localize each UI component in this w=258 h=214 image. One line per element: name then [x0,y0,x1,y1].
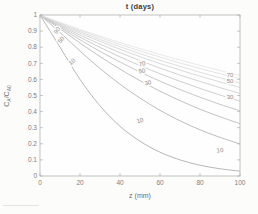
y-tick-label: 0.8 [28,43,37,50]
plot-area [40,15,240,176]
x-tick-label: 100 [235,179,246,186]
x-tick-label: 60 [156,179,164,186]
contour-plot-canvas: 02040608010000.10.20.30.40.50.60.70.80.9… [0,0,258,214]
contour-label-50: 50 [227,78,234,84]
contour-label-10: 10 [216,147,224,153]
y-tick-label: 0.1 [28,156,37,163]
y-tick-label: 1 [33,11,37,18]
y-tick-label: 0.7 [28,60,37,67]
contour-label-30: 30 [227,94,234,100]
y-tick-label: 0.3 [28,124,37,131]
x-tick-label: 40 [116,179,124,186]
y-tick-label: 0.5 [28,92,37,99]
y-tick-label: 0.2 [28,140,37,147]
matlab-figure: t (days) CA/CA0 02040608010000.10.20.30.… [0,0,258,214]
y-tick-label: 0 [33,172,37,179]
x-axis-label: z (mm) [40,192,240,199]
y-tick-label: 0.4 [28,108,37,115]
bottom-edge-artifact-line [3,205,39,206]
x-tick-label: 0 [38,179,42,186]
y-tick-label: 0.6 [28,76,37,83]
y-tick-label: 0.9 [28,27,37,34]
x-tick-label: 80 [196,179,204,186]
x-tick-label: 20 [76,179,84,186]
